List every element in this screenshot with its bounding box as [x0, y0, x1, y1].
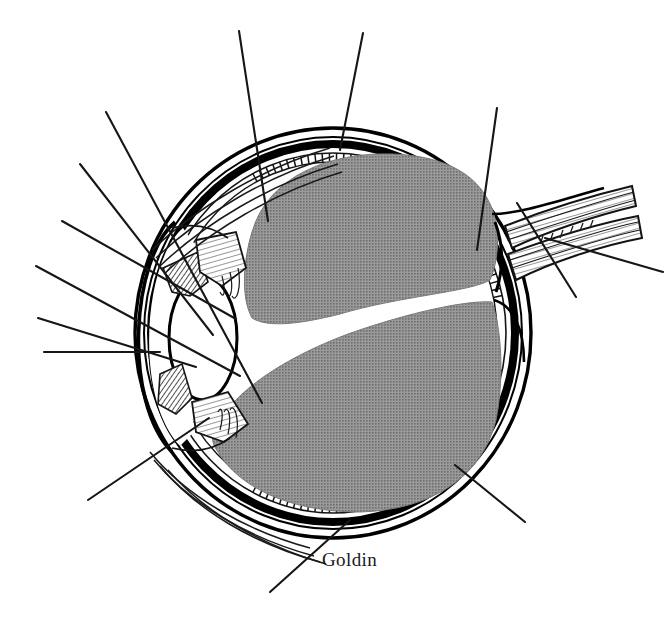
eye-cross-section-illustration: Goldin — [0, 0, 666, 632]
eye-diagram-figure: Goldin — [0, 0, 666, 632]
retina-tick — [322, 153, 323, 162]
artist-signature: Goldin — [322, 549, 377, 570]
